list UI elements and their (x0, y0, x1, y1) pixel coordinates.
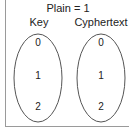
cyphertext-element-1: 1 (91, 70, 111, 81)
key-element-1: 1 (28, 70, 48, 81)
key-element-2: 2 (28, 101, 48, 112)
cyphertext-element-0: 0 (91, 37, 111, 48)
cyphertext-element-2: 2 (91, 101, 111, 112)
key-element-0: 0 (28, 37, 48, 48)
